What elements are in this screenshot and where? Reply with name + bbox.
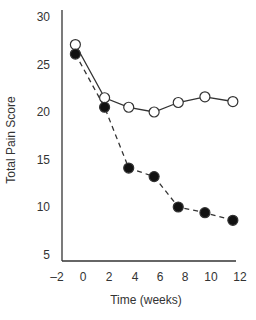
filled-data-point xyxy=(149,172,159,182)
filled-data-point xyxy=(173,202,183,212)
x-tick-label: 8 xyxy=(182,270,189,284)
open-data-point xyxy=(149,107,159,117)
series-layer xyxy=(70,40,237,226)
y-tick-label: 5 xyxy=(43,248,50,262)
x-tick-label: 6 xyxy=(157,270,164,284)
x-tick-label: –2 xyxy=(50,270,64,284)
x-tick-label: 2 xyxy=(106,270,113,284)
open-data-point xyxy=(70,40,80,50)
open-data-point xyxy=(200,92,210,102)
open-circles-line xyxy=(75,45,233,113)
y-tick-label: 30 xyxy=(37,10,51,24)
filled-data-point xyxy=(228,215,238,225)
filled-circles-line xyxy=(75,54,233,220)
filled-data-point xyxy=(100,102,110,112)
x-tick-label: 0 xyxy=(80,270,87,284)
x-axis-label: Time (weeks) xyxy=(110,293,182,307)
filled-data-point xyxy=(124,163,134,173)
x-tick-label: 10 xyxy=(204,270,218,284)
open-data-point xyxy=(228,97,238,107)
y-tick-label: 15 xyxy=(37,153,51,167)
filled-data-point xyxy=(70,49,80,59)
axes: 51015202530–2024681012 xyxy=(37,10,247,284)
line-chart: 51015202530–2024681012 Total Pain Score … xyxy=(0,0,256,320)
x-tick-label: 12 xyxy=(233,270,247,284)
y-axis-label: Total Pain Score xyxy=(4,96,18,184)
y-tick-label: 20 xyxy=(37,105,51,119)
x-tick-label: 4 xyxy=(132,270,139,284)
open-data-point xyxy=(100,93,110,103)
open-data-point xyxy=(124,102,134,112)
y-tick-label: 10 xyxy=(37,200,51,214)
filled-data-point xyxy=(200,208,210,218)
y-tick-label: 25 xyxy=(37,58,51,72)
open-data-point xyxy=(173,98,183,108)
